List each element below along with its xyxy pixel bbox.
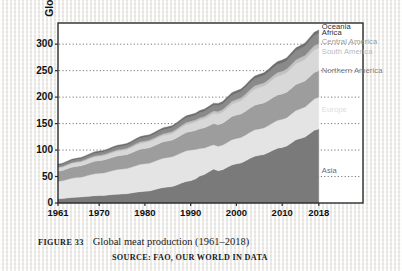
- figure-title: Global meat production (1961–2018): [93, 236, 250, 247]
- caption-line: FIGURE 33Global meat production (1961–20…: [38, 236, 249, 247]
- x-tick-label: 2000: [219, 207, 253, 218]
- y-tick-label: 150: [27, 118, 53, 129]
- y-tick-label: 100: [27, 144, 53, 155]
- y-tick-label: 300: [27, 38, 53, 49]
- legend-label-asia: Asia: [322, 166, 337, 175]
- x-tick-label: 1961: [41, 207, 75, 218]
- x-tick-label: 1970: [82, 207, 116, 218]
- y-tick-label: 200: [27, 91, 53, 102]
- y-tick-label: 250: [27, 65, 53, 76]
- legend-label-south-america: South America: [322, 47, 373, 56]
- legend-label-africa: Africa: [322, 28, 342, 37]
- x-tick-label: 2018: [302, 207, 336, 218]
- legend-label-northern-america: Northern America: [322, 66, 383, 75]
- x-tick-label: 1980: [128, 207, 162, 218]
- x-tick-label: 1990: [174, 207, 208, 218]
- legend-label-europe: Europe: [322, 105, 347, 114]
- chart-plot-area: Global meat production (million t) 05010…: [33, 18, 373, 221]
- y-tick-label: 50: [27, 171, 53, 182]
- figure-number: FIGURE 33: [38, 238, 84, 247]
- figure-global-meat-production: Global meat production (million t) 05010…: [0, 0, 402, 271]
- x-tick-label: 2010: [265, 207, 299, 218]
- figure-source: SOURCE: FAO, OUR WORLD IN DATA: [112, 253, 268, 262]
- legend-label-central-america: Central America: [322, 37, 378, 46]
- y-axis-title: Global meat production (million t): [43, 0, 55, 36]
